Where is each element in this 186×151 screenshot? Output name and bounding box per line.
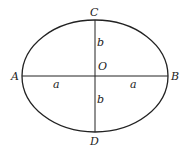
segment-label-b-top: b [97, 36, 104, 49]
point-label-A: A [10, 70, 19, 83]
center-label-O: O [98, 60, 107, 73]
point-label-B: B [170, 70, 179, 83]
point-label-C: C [90, 6, 99, 19]
segment-label-a-left: a [53, 78, 60, 91]
segment-label-a-right: a [130, 78, 137, 91]
ellipse-diagram: A B C D O a a b b [0, 0, 186, 151]
point-label-D: D [89, 135, 99, 148]
segment-label-b-bottom: b [97, 93, 104, 106]
